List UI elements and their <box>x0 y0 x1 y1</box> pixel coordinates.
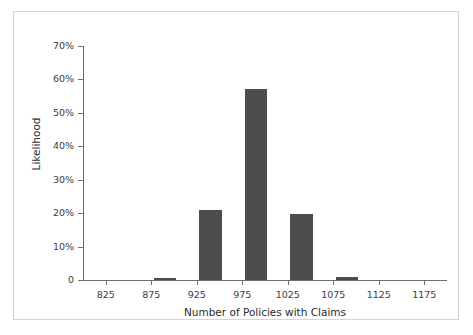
x-tick-mark <box>151 280 152 285</box>
chart-figure: 010%20%30%40%50%60%70% 82587592597510251… <box>13 11 459 320</box>
y-tick: 60% <box>14 74 83 84</box>
x-tick-mark <box>288 280 289 285</box>
y-tick: 0 <box>14 275 83 285</box>
bar <box>154 278 177 280</box>
x-tick-label: 1175 <box>394 289 454 300</box>
y-axis-line <box>83 46 84 281</box>
y-tick: 50% <box>14 108 83 118</box>
y-tick-label: 0 <box>16 275 74 285</box>
x-tick-mark <box>197 280 198 285</box>
y-tick: 10% <box>14 242 83 252</box>
x-tick-mark <box>106 280 107 285</box>
y-tick-label: 40% <box>16 141 74 151</box>
x-tick-mark <box>424 280 425 285</box>
y-tick-label: 20% <box>16 208 74 218</box>
y-axis-label: Likelihood <box>30 89 42 199</box>
x-axis-line <box>83 280 447 281</box>
bar <box>290 214 313 280</box>
bar <box>199 210 222 280</box>
x-tick-mark <box>333 280 334 285</box>
y-tick-label: 30% <box>16 175 74 185</box>
y-tick: 70% <box>14 41 83 51</box>
y-tick-label: 50% <box>16 108 74 118</box>
x-tick-mark <box>379 280 380 285</box>
y-tick: 40% <box>14 141 83 151</box>
y-tick: 30% <box>14 175 83 185</box>
x-tick-mark <box>242 280 243 285</box>
y-tick-label: 10% <box>16 242 74 252</box>
bar <box>245 89 268 280</box>
bar <box>336 277 359 280</box>
x-axis-label: Number of Policies with Claims <box>83 306 447 318</box>
y-tick: 20% <box>14 208 83 218</box>
y-tick-label: 60% <box>16 74 74 84</box>
y-tick-label: 70% <box>16 41 74 51</box>
